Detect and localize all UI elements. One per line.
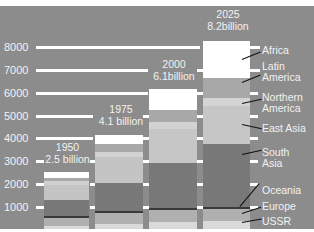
segment-africa: [149, 89, 197, 110]
bar-label-year-2000: 2000: [146, 58, 202, 70]
segment-east-asia: [149, 129, 197, 163]
bar-2000: [149, 89, 197, 230]
bar-1950: [44, 172, 89, 230]
population-chart: 8000 7000 6000 5000 4000 3000 2000 1000: [0, 0, 314, 232]
bar-label-total-2025: 8.2billion: [200, 20, 256, 32]
bar-label-total-1950: 2.5 billion: [40, 153, 95, 165]
segment-europe: [149, 210, 197, 222]
segment-east-asia: [95, 157, 143, 183]
frame-top: [0, 0, 314, 6]
segment-south-asia: [149, 163, 197, 208]
bar-label-total-1975: 4.1 billion: [92, 115, 150, 127]
segment-south-asia: [95, 183, 143, 211]
legend-europe: Europe: [262, 201, 296, 212]
bar-label-year-1950: 1950: [40, 141, 95, 153]
legend-northern-america-line2: America: [262, 103, 301, 114]
bar-label-total-2000: 6.1billion: [146, 70, 202, 82]
legend-ussr: USSR: [262, 216, 291, 227]
bar-label-year-2025: 2025: [200, 8, 256, 20]
legend-east-asia: East Asia: [262, 123, 306, 134]
segment-europe: [95, 213, 143, 224]
frame-bottom: [0, 229, 314, 232]
legend-latin-america-line2: America: [262, 72, 301, 83]
segment-europe: [44, 218, 89, 226]
bar-1975: [95, 135, 143, 230]
segment-east-asia: [44, 185, 89, 200]
segment-europe: [203, 209, 250, 221]
segment-latin-america: [95, 144, 143, 152]
segment-africa: [95, 135, 143, 144]
bar-label-year-1975: 1975: [92, 103, 150, 115]
segment-south-asia: [44, 200, 89, 216]
legend-africa: Africa: [262, 45, 289, 56]
segment-northern-america: [149, 122, 197, 129]
legend-south-asia-line2: Asia: [262, 158, 282, 169]
legend-oceania: Oceania: [262, 185, 301, 196]
segment-latin-america: [149, 110, 197, 122]
